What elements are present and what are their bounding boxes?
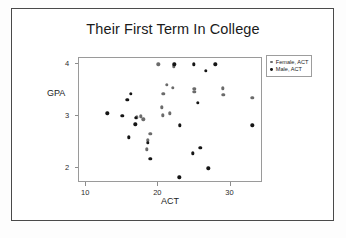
data-point (214, 63, 217, 66)
data-point (171, 86, 174, 89)
legend-item-label: Female, ACT (276, 59, 309, 66)
data-point (134, 116, 137, 119)
data-point (146, 141, 149, 144)
data-point (142, 118, 145, 121)
data-point (250, 96, 253, 99)
x-axis-tick (157, 182, 158, 186)
scatter-plot-area (78, 57, 262, 182)
data-point (178, 123, 181, 126)
x-axis-tick-label: 10 (81, 188, 89, 197)
legend-marker-icon (270, 68, 273, 71)
data-point (178, 176, 181, 179)
chart-legend: Female, ACTMale, ACT (266, 55, 312, 77)
chart-title: Their First Term In College (0, 21, 346, 37)
data-point (149, 157, 152, 160)
y-axis-tick-label: 4 (65, 59, 69, 68)
slide-canvas: Their First Term In College GPA ACT 1020… (0, 0, 346, 238)
data-point (196, 101, 199, 104)
data-point (134, 122, 137, 125)
data-point (157, 63, 160, 66)
data-point (126, 98, 129, 101)
data-point (206, 167, 209, 170)
data-point (204, 69, 207, 72)
data-point (168, 112, 171, 115)
x-axis-tick-label: 30 (225, 188, 233, 197)
data-point (173, 63, 176, 66)
data-point (149, 132, 152, 135)
y-axis-tick (75, 115, 79, 116)
x-axis-label: ACT (161, 196, 179, 206)
data-point (161, 114, 164, 117)
y-axis-tick (75, 167, 79, 168)
data-point (191, 152, 194, 155)
y-axis-tick-label: 2 (65, 163, 69, 172)
data-point (199, 146, 202, 149)
data-point (162, 92, 165, 95)
y-axis-tick (75, 63, 79, 64)
data-point (250, 123, 253, 126)
y-axis-label: GPA (47, 88, 65, 98)
x-axis-tick-label: 20 (153, 188, 161, 197)
data-point (121, 114, 124, 117)
y-axis-tick-label: 3 (65, 111, 69, 120)
data-point (222, 93, 225, 96)
data-point (105, 112, 108, 115)
legend-marker-icon (270, 61, 273, 64)
legend-item[interactable]: Female, ACT (269, 59, 308, 66)
x-axis-tick (230, 182, 231, 186)
data-point (145, 147, 148, 150)
data-point (165, 83, 168, 86)
data-point (192, 63, 195, 66)
data-point (221, 87, 224, 90)
data-point (129, 92, 132, 95)
data-point (160, 106, 163, 109)
x-axis-tick (85, 182, 86, 186)
legend-item-label: Male, ACT (276, 66, 302, 73)
legend-item[interactable]: Male, ACT (269, 66, 308, 73)
data-point (193, 90, 196, 93)
data-point (127, 135, 130, 138)
